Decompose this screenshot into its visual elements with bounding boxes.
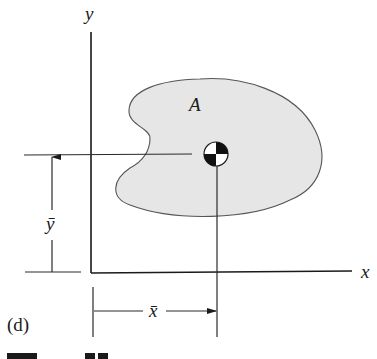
part-label: (d) <box>7 314 29 336</box>
x-bar-label: x̄ <box>148 300 158 321</box>
caption-fragment <box>7 353 108 359</box>
y-axis-label: y <box>83 3 94 24</box>
centroid-marker-icon <box>204 142 228 166</box>
area-label: A <box>187 94 201 115</box>
x-axis-label: x <box>360 261 370 282</box>
y-bar-label: ȳ <box>44 213 55 234</box>
centroid-diagram: y x A ȳ x̄ (d) <box>0 0 377 359</box>
x-axis <box>91 271 352 273</box>
